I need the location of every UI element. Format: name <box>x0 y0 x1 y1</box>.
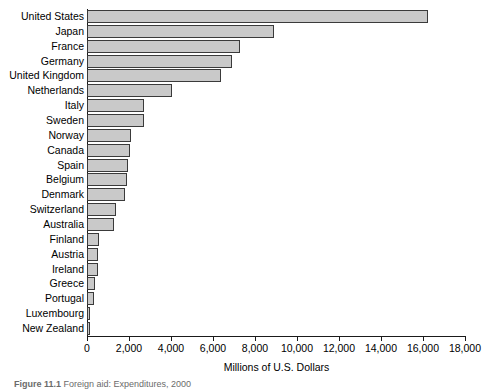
category-label: Belgium <box>1 174 84 185</box>
x-tick-label: 10,000 <box>281 342 313 354</box>
x-tick-label: 12,000 <box>323 342 355 354</box>
x-tick-label: 14,000 <box>365 342 397 354</box>
bar-chart-figure: United StatesJapanFranceGermanyUnited Ki… <box>0 0 490 389</box>
x-tick-mark <box>87 337 88 341</box>
bar <box>87 55 232 68</box>
x-tick-label: 16,000 <box>407 342 439 354</box>
x-axis-title: Millions of U.S. Dollars <box>87 361 466 373</box>
category-label: Canada <box>1 145 84 156</box>
bar <box>87 10 428 23</box>
x-tick-label: 2,000 <box>116 342 142 354</box>
bar <box>87 173 127 186</box>
bar <box>87 188 125 201</box>
figure-caption: Figure 11.1 Foreign aid: Expenditures, 2… <box>14 379 484 389</box>
x-tick-mark <box>423 337 424 341</box>
bar <box>87 159 128 172</box>
category-label: Finland <box>1 234 84 245</box>
bar <box>87 233 99 246</box>
category-label: Spain <box>1 160 84 171</box>
figure-caption-text: Foreign aid: Expenditures, 2000 <box>64 379 192 389</box>
category-label: Australia <box>1 219 84 230</box>
x-tick-mark <box>213 337 214 341</box>
x-axis-ticks: 02,0004,0006,0008,00010,00012,00014,0001… <box>87 337 466 359</box>
x-tick-mark <box>381 337 382 341</box>
category-label: Greece <box>1 278 84 289</box>
category-label: New Zealand <box>1 323 84 334</box>
x-tick-mark <box>465 337 466 341</box>
bar <box>87 144 130 157</box>
category-label: Germany <box>1 56 84 67</box>
bar <box>87 248 98 261</box>
category-label: Italy <box>1 100 84 111</box>
bar <box>87 203 116 216</box>
category-label: Norway <box>1 130 84 141</box>
bar <box>87 322 90 335</box>
bar <box>87 69 221 82</box>
category-label: Netherlands <box>1 85 84 96</box>
bar <box>87 84 172 97</box>
category-label: Switzerland <box>1 204 84 215</box>
x-tick-label: 18,000 <box>449 342 481 354</box>
category-label: United States <box>1 11 84 22</box>
x-tick-mark <box>339 337 340 341</box>
category-label: Portugal <box>1 293 84 304</box>
bar <box>87 25 274 38</box>
bar <box>87 114 144 127</box>
x-tick-mark <box>255 337 256 341</box>
bar <box>87 40 240 53</box>
x-tick-mark <box>129 337 130 341</box>
bar <box>87 263 98 276</box>
x-tick-mark <box>297 337 298 341</box>
bar <box>87 218 114 231</box>
category-label: Denmark <box>1 189 84 200</box>
figure-caption-label: Figure 11.1 <box>14 379 61 389</box>
bar <box>87 292 94 305</box>
x-tick-label: 4,000 <box>158 342 184 354</box>
category-label: Luxembourg <box>1 308 84 319</box>
y-axis-category-labels: United StatesJapanFranceGermanyUnited Ki… <box>0 9 84 337</box>
plot-area <box>87 9 465 336</box>
category-label: Ireland <box>1 264 84 275</box>
category-label: United Kingdom <box>1 70 84 81</box>
category-label: France <box>1 41 84 52</box>
bar <box>87 277 95 290</box>
x-tick-mark <box>171 337 172 341</box>
bar <box>87 99 144 112</box>
x-tick-label: 6,000 <box>200 342 226 354</box>
x-tick-label: 8,000 <box>242 342 268 354</box>
x-tick-label: 0 <box>84 342 90 354</box>
category-label: Japan <box>1 26 84 37</box>
bar <box>87 307 90 320</box>
bar <box>87 129 131 142</box>
category-label: Sweden <box>1 115 84 126</box>
category-label: Austria <box>1 249 84 260</box>
